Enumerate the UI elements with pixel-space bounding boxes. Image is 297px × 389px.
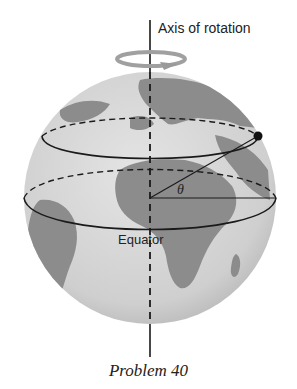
point-marker-icon	[254, 132, 263, 141]
theta-label: θ	[177, 182, 184, 198]
axis-of-rotation-label: Axis of rotation	[158, 20, 251, 36]
rotation-arrow-icon	[117, 52, 185, 70]
equator-label: Equator	[118, 232, 164, 247]
figure-caption: Problem 40	[0, 361, 297, 381]
globe-diagram	[0, 0, 297, 389]
globe-figure: Axis of rotation θ Equator Problem 40	[0, 0, 297, 389]
